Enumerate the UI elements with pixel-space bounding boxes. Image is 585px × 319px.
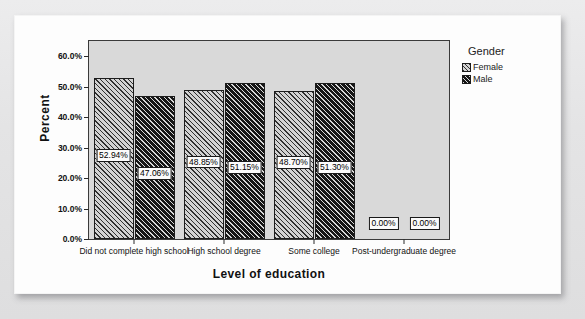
legend: Gender Female Male — [462, 45, 552, 86]
x-axis-tick — [404, 239, 405, 244]
bar-value-label: 51.15% — [227, 161, 262, 174]
y-axis-tick: 0.0% — [63, 234, 89, 244]
bar-value-label: 48.70% — [276, 156, 311, 169]
bar-value-label: 0.00% — [368, 217, 398, 230]
bar-value-label: 51.30% — [317, 161, 352, 174]
legend-item-male[interactable]: Male — [462, 74, 552, 84]
bar-value-label: 0.00% — [409, 217, 439, 230]
legend-label-female: Female — [473, 62, 503, 72]
x-axis-category-label: Post-undergraduate degree — [348, 246, 460, 257]
bar-chart: Percent 0.0%10.0%20.0%30.0%40.0%50.0%60.… — [14, 15, 559, 292]
y-axis-title: Percent — [38, 73, 52, 163]
y-axis-tick: 30.0% — [58, 143, 89, 153]
y-axis-tick: 50.0% — [58, 82, 89, 92]
legend-label-male: Male — [473, 74, 493, 84]
plot-inner: 0.0%10.0%20.0%30.0%40.0%50.0%60.0%Did no… — [89, 41, 449, 239]
y-axis-tick: 60.0% — [58, 51, 89, 61]
legend-swatch-male-icon — [462, 75, 471, 84]
bar-value-label: 52.94% — [96, 149, 131, 162]
legend-title: Gender — [468, 45, 552, 57]
bar-value-label: 47.06% — [137, 167, 172, 180]
bar-value-label: 48.85% — [186, 156, 221, 169]
y-axis-tick: 40.0% — [58, 112, 89, 122]
x-axis-tick — [134, 239, 135, 244]
x-axis-title: Level of education — [88, 267, 450, 281]
legend-swatch-female-icon — [462, 63, 471, 72]
plot-area: 0.0%10.0%20.0%30.0%40.0%50.0%60.0%Did no… — [88, 40, 450, 240]
y-axis-tick: 20.0% — [58, 173, 89, 183]
x-axis-tick — [314, 239, 315, 244]
legend-item-female[interactable]: Female — [462, 62, 552, 72]
x-axis-tick — [224, 239, 225, 244]
y-axis-tick: 10.0% — [58, 204, 89, 214]
